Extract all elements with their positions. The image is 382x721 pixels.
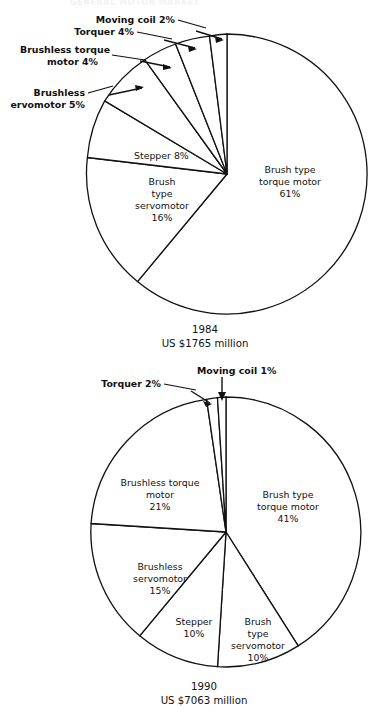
caption-year-1990: 1990 — [191, 681, 217, 692]
label-brushless-servo-1984-line1: Brushless — [34, 87, 86, 98]
label-stepper-1990-line1: Stepper — [176, 616, 213, 627]
pie-chart-1984: Moving coil 2% Torquer 4% Brushless torq… — [11, 14, 368, 349]
label-moving-coil-1984: Moving coil 2% — [96, 14, 176, 25]
label-stepper-1984: Stepper 8% — [134, 150, 189, 161]
label-brush-torque-1990-line1: Brush type — [263, 489, 314, 500]
pie-chart-1990: Moving coil 1% Torquer 2% Brushless torq… — [91, 365, 361, 706]
label-brush-torque-1984-line2: torque motor — [259, 176, 321, 187]
label-brush-servo-1990-line4: 10% — [248, 652, 269, 663]
label-brushless-torque-1984-line1: Brushless torque — [20, 44, 110, 55]
label-brushless-torque-1990-line3: 21% — [150, 501, 171, 512]
label-brush-servo-1990-line3: servomotor — [231, 640, 285, 651]
label-brush-servo-1990-line1: Brush — [244, 616, 271, 627]
label-brush-servo-1984-line4: 16% — [152, 212, 173, 223]
label-brushless-servo-1990-line2: servomotor — [133, 573, 187, 584]
leader-line-torquer-1990 — [164, 384, 196, 390]
label-brush-servo-1984-line3: servomotor — [135, 200, 189, 211]
label-brush-torque-1984-line1: Brush type — [265, 164, 316, 175]
label-brushless-servo-1990-line3: 15% — [150, 585, 171, 596]
label-brushless-servo-1990-line1: Brushless — [137, 561, 182, 572]
label-moving-coil-1990: Moving coil 1% — [197, 365, 277, 376]
label-brush-torque-1984-line3: 61% — [280, 188, 301, 199]
label-brush-torque-1990-line2: torque motor — [257, 501, 319, 512]
label-torquer-1984: Torquer 4% — [74, 26, 134, 37]
label-brushless-torque-1990-line2: motor — [146, 489, 174, 500]
leader-line-torquer-1984 — [137, 32, 172, 39]
caption-total-1990: US $7063 million — [161, 695, 248, 706]
label-brush-servo-1984-line2: type — [152, 188, 173, 199]
label-brush-torque-1990-line3: 41% — [278, 513, 299, 524]
label-stepper-1990-line2: 10% — [184, 628, 205, 639]
two-pie-chart-figure: Moving coil 2% Torquer 4% Brushless torq… — [0, 0, 382, 721]
label-brush-servo-1990-line2: type — [248, 628, 269, 639]
figure-page: GENERAL MOTOR MARKET — [0, 0, 382, 721]
leader-line-brushless-servo-1984 — [88, 86, 113, 93]
label-brushless-torque-1984-line2: motor 4% — [47, 56, 99, 67]
slice-1990-brushless-torque-motor[interactable] — [91, 399, 226, 532]
caption-total-1984: US $1765 million — [162, 338, 249, 349]
label-brush-servo-1984-line1: Brush — [148, 176, 175, 187]
caption-year-1984: 1984 — [192, 324, 218, 335]
label-brushless-servo-1984-line2: ervomotor 5% — [11, 99, 86, 110]
label-torquer-1990: Torquer 2% — [101, 378, 161, 389]
leader-line-brushless-torque-1984 — [112, 55, 145, 60]
label-brushless-torque-1990-line1: Brushless torque — [121, 477, 200, 488]
leader-line-moving-coil-1984 — [178, 20, 206, 28]
